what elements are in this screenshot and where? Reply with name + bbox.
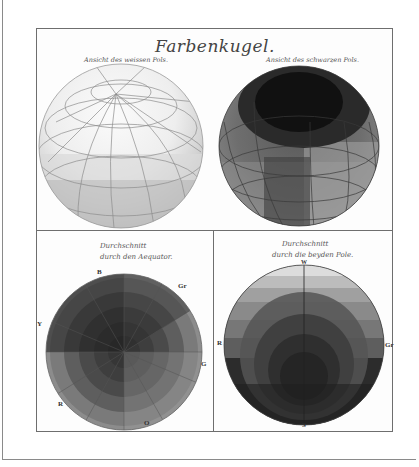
equator-section-caption-line1: Durchschnitt [100, 242, 146, 250]
poles-section-caption-line1: Durchschnitt [282, 240, 328, 248]
poles-section-caption-line2: durch die beyden Pole. [272, 251, 353, 259]
white-pole-sphere [36, 62, 214, 230]
poles-section-disc [223, 264, 385, 426]
poles-label-s: S [302, 421, 306, 429]
equator-label-o: O [144, 419, 149, 427]
poles-label-w: W [301, 259, 307, 265]
poles-label-gr: Gr [385, 341, 394, 349]
equator-label-gr: Gr [178, 282, 187, 290]
equator-label-r: R [58, 400, 63, 408]
equator-label-y: Y [37, 320, 42, 328]
equator-section-caption-line2: durch den Aequator. [100, 253, 173, 261]
poles-label-r: R [217, 339, 222, 347]
outer-frame-bottom-border [2, 459, 416, 460]
equator-section-disc [44, 272, 204, 432]
horizontal-divider [36, 230, 393, 231]
black-pole-sphere [214, 62, 392, 230]
equator-label-b: B [97, 268, 102, 276]
vertical-divider [213, 230, 214, 432]
equator-label-g: G [201, 360, 206, 368]
outer-frame-left-border [2, 0, 3, 460]
plate-title: Farbenkugel. [150, 36, 280, 56]
